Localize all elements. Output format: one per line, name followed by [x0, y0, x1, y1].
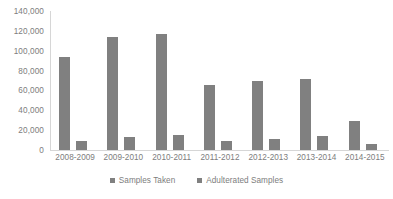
y-axis-tick-label: 40,000	[18, 106, 44, 115]
legend-label: Adulterated Samples	[206, 176, 283, 185]
x-axis-tick-label: 2014-2015	[345, 153, 385, 162]
y-axis-tick-label: 0	[39, 146, 44, 155]
x-axis-tick-label: 2012-2013	[248, 153, 288, 162]
bar-samples-taken	[156, 34, 167, 150]
x-axis-tick-label: 2009-2010	[104, 153, 144, 162]
bar-group	[244, 11, 292, 150]
bar-group	[148, 11, 196, 150]
legend-item[interactable]: Adulterated Samples	[197, 176, 283, 185]
legend-item[interactable]: Samples Taken	[110, 176, 175, 185]
bar-samples-taken	[349, 121, 360, 150]
bar-samples-taken	[59, 57, 70, 150]
bar-group	[341, 11, 389, 150]
bar-samples-taken	[300, 79, 311, 150]
y-axis-tick-label: 140,000	[14, 7, 44, 16]
y-axis-tick-label: 80,000	[18, 66, 44, 75]
bar-adulterated-samples	[76, 141, 87, 150]
y-axis: 140,000120,000100,00080,00060,00040,0002…	[0, 0, 48, 199]
x-axis-tick-label: 2008-2009	[55, 153, 95, 162]
bar-samples-taken	[252, 81, 263, 151]
bar-chart: 140,000120,000100,00080,00060,00040,0002…	[0, 0, 393, 199]
bar-samples-taken	[204, 85, 215, 150]
bar-group	[51, 11, 99, 150]
y-axis-tick-label: 20,000	[18, 126, 44, 135]
bar-adulterated-samples	[317, 136, 328, 150]
legend-swatch-icon	[197, 178, 202, 183]
x-axis-tick-label: 2011-2012	[201, 153, 240, 162]
x-axis-line	[50, 150, 389, 151]
chart-legend: Samples TakenAdulterated Samples	[0, 176, 393, 185]
bar-group	[292, 11, 340, 150]
bar-adulterated-samples	[124, 137, 135, 150]
plot-area	[51, 11, 389, 150]
bar-samples-taken	[107, 37, 118, 150]
y-axis-tick-label: 100,000	[14, 46, 44, 55]
bar-group	[196, 11, 244, 150]
y-axis-tick-label: 120,000	[14, 26, 44, 35]
bar-group	[99, 11, 147, 150]
legend-swatch-icon	[110, 178, 115, 183]
legend-label: Samples Taken	[119, 176, 175, 185]
y-axis-tick-label: 60,000	[18, 86, 44, 95]
x-axis: 2008-20092009-20102010-20112011-20122012…	[51, 153, 389, 167]
bar-adulterated-samples	[269, 139, 280, 150]
x-axis-tick-label: 2010-2011	[152, 153, 191, 162]
x-axis-tick-label: 2013-2014	[297, 153, 337, 162]
bar-adulterated-samples	[173, 135, 184, 150]
bar-adulterated-samples	[221, 141, 232, 150]
